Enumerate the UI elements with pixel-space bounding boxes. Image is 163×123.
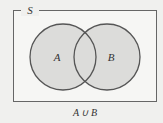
set-a-label: A <box>53 51 61 63</box>
venn-diagram: S A B A ∪ B <box>0 0 163 123</box>
universe-label: S <box>27 4 33 16</box>
caption: A ∪ B <box>72 107 97 118</box>
set-b-label: B <box>108 51 115 63</box>
